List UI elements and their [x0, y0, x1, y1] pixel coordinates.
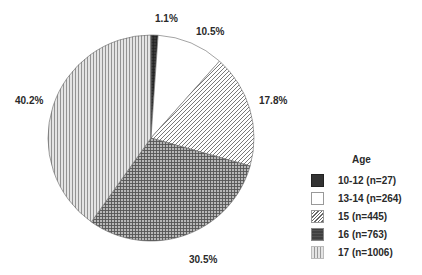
legend-item-15: 15 (n=445) [311, 209, 387, 223]
legend-item-13-14: 13-14 (n=264) [311, 191, 402, 205]
swatch-diagonal-hatch-icon [311, 210, 324, 223]
swatch-vertical-lines-icon [311, 246, 324, 259]
legend-item-10-12: 10-12 (n=27) [311, 173, 396, 187]
slice-label-17: 40.2% [15, 95, 43, 106]
slice-label-13-14: 10.5% [196, 26, 224, 37]
legend-title: Age [352, 154, 371, 165]
slice-label-10-12: 1.1% [155, 13, 178, 24]
legend-item-16: 16 (n=763) [311, 227, 387, 241]
legend-item-17: 17 (n=1006) [311, 245, 393, 259]
slice-label-16: 30.5% [189, 254, 217, 265]
swatch-white-icon [311, 192, 324, 205]
swatch-crosshatch-icon [311, 228, 324, 241]
slice-label-15: 17.8% [259, 95, 287, 106]
swatch-dark-crosshatch-icon [311, 174, 324, 187]
pie-slices [48, 35, 254, 241]
